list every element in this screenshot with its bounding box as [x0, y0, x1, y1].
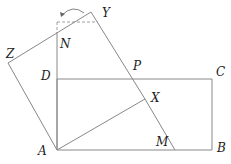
diagram-canvas: A B C D M X P Y Z N [0, 0, 231, 164]
square-AXYZ [8, 12, 145, 150]
label-B: B [216, 141, 226, 155]
label-C: C [216, 65, 225, 79]
rectangle-ABCD [57, 79, 212, 150]
label-M: M [155, 135, 169, 149]
label-A: A [37, 144, 47, 158]
label-N: N [59, 37, 71, 51]
label-X: X [150, 91, 160, 105]
label-P: P [132, 59, 142, 73]
label-Z: Z [5, 47, 15, 61]
geometry-diagram: A B C D M X P Y Z N [0, 0, 231, 164]
rotation-arrow-icon [62, 9, 84, 15]
label-D: D [40, 69, 51, 83]
label-Y: Y [102, 6, 111, 20]
